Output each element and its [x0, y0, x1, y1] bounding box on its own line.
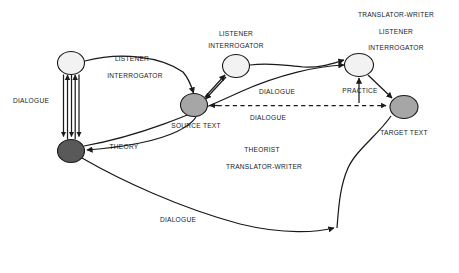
label-theorist: THEORIST: [244, 146, 279, 153]
label-interrogator-left: INTERROGATOR: [107, 72, 163, 79]
label-target-text: TARGET TEXT: [380, 129, 427, 136]
node-target-text[interactable]: [390, 96, 418, 119]
edge-source-text-to-listener: [205, 75, 225, 97]
label-dialogue-bottom: DIALOGUE: [160, 216, 196, 223]
node-middle-listener[interactable]: [223, 55, 250, 78]
edge-group-left-dialogue: [64, 75, 80, 140]
label-theory: THEORY: [110, 143, 139, 150]
label-dialogue-middle: DIALOGUE: [259, 88, 295, 95]
node-source-text[interactable]: [181, 94, 208, 117]
label-translator-writer-lower: TRANSLATOR-WRITER: [226, 163, 302, 170]
label-dialogue-lower-middle: DIALOGUE: [250, 114, 286, 121]
diagram-canvas: LISTENER INTERROGATOR DIALOGUE THEORY LI…: [0, 0, 459, 273]
label-practice: PRACTICE: [342, 87, 377, 94]
label-interrogator-right: INTERROGATOR: [368, 44, 424, 51]
label-source-text: SOURCE TEXT: [171, 122, 221, 129]
node-bottom-left-theorist[interactable]: [58, 140, 85, 163]
edge-listener-to-source-text: [206, 77, 227, 99]
label-interrogator-middle: INTERROGATOR: [208, 42, 264, 49]
label-listener-middle: LISTENER: [219, 30, 253, 37]
label-listener-left: LISTENER: [115, 55, 149, 62]
node-practice[interactable]: [345, 54, 374, 77]
label-listener-right: LISTENER: [379, 28, 413, 35]
node-top-left[interactable]: [58, 52, 85, 75]
label-dialogue-left: DIALOGUE: [13, 97, 49, 104]
label-translator-writer-top: TRANSLATOR-WRITER: [358, 11, 434, 18]
